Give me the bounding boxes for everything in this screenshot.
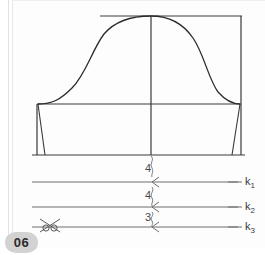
connector-squiggle-top — [151, 156, 153, 177]
pattern-page: 4 4 3 k1 k2 k3 06 — [0, 0, 265, 255]
measure-label-bottom: 3 — [145, 211, 151, 223]
scissors-icon — [40, 219, 60, 232]
guide-label-k1: k1 — [245, 175, 255, 190]
right-dart-line — [232, 104, 240, 155]
guide-label-k3-subscript: 3 — [251, 226, 255, 235]
guide-label-k2-subscript: 2 — [251, 206, 255, 215]
guide-label-k2: k2 — [245, 200, 255, 215]
connector-squiggle-bottom — [151, 212, 153, 227]
guide-label-k1-subscript: 1 — [251, 181, 255, 190]
pattern-drawing — [0, 0, 265, 255]
page-number-badge: 06 — [5, 232, 38, 253]
measure-label-top: 4 — [145, 162, 151, 174]
left-dart-line — [38, 104, 45, 155]
connector-squiggle-middle — [151, 187, 153, 206]
measure-label-middle: 4 — [145, 189, 151, 201]
sleeve-cap-curve — [38, 16, 240, 104]
guide-label-k3: k3 — [245, 220, 255, 235]
